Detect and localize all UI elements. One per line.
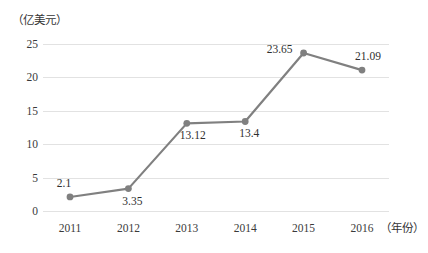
data-point-marker xyxy=(183,120,190,127)
series-line xyxy=(70,53,362,197)
data-point-label: 13.4 xyxy=(219,127,279,139)
data-point-marker xyxy=(125,185,132,192)
data-point-marker xyxy=(242,118,249,125)
x-axis-title: （年份） xyxy=(380,222,424,235)
data-point-label: 2.1 xyxy=(34,177,94,189)
data-point-label: 23.65 xyxy=(250,43,310,55)
data-point-marker xyxy=(67,194,74,201)
data-point-marker xyxy=(359,67,366,74)
data-point-label: 13.12 xyxy=(163,129,223,141)
series-line-group xyxy=(0,0,428,253)
data-point-label: 21.09 xyxy=(338,50,398,62)
series-markers xyxy=(67,50,366,201)
line-chart: （亿美元） 0510152025 20112012201320142015201… xyxy=(0,0,428,253)
data-point-label: 3.35 xyxy=(102,195,162,207)
